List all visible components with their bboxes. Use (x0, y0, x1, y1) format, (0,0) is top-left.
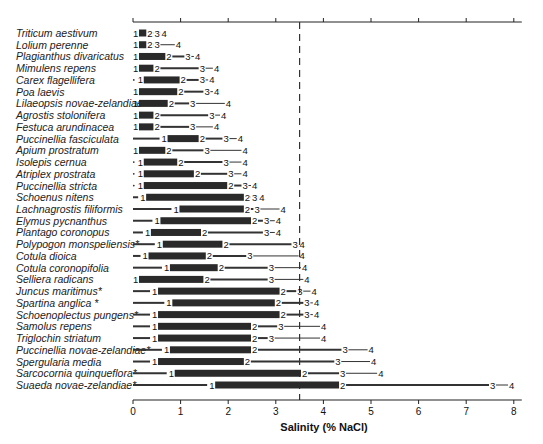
marker-4: 4 (281, 204, 286, 215)
marker-1: 1 (164, 344, 169, 355)
range-bar (158, 288, 280, 295)
range-bar (158, 335, 251, 342)
marker-2: 2 (195, 168, 200, 179)
species-label: Puccinellia novae-zelandiae* (16, 344, 151, 356)
marker-3: 3 (304, 309, 309, 320)
species-row: Sarcocornia quinqueflora*1234 (16, 367, 383, 379)
species-label: Agrostis stolonifera (15, 109, 105, 121)
marker-3: 3 (264, 215, 269, 226)
species-row: Atriplex prostrata1234 (15, 168, 248, 180)
species-row: Plagianthus divaricatus1234 (16, 50, 200, 62)
species-label: Mimulens repens (16, 62, 97, 74)
species-label: Festuca arundinacea (16, 121, 114, 133)
range-bar (139, 112, 153, 119)
marker-1: 1 (133, 121, 138, 132)
x-tick-label: 6 (416, 406, 422, 417)
marker-2: 2 (302, 368, 307, 379)
marker-2: 2 (154, 121, 159, 132)
marker-4: 4 (242, 168, 247, 179)
marker-1: 1 (133, 110, 138, 121)
marker-3: 3 (342, 344, 347, 355)
range-bar (139, 276, 203, 283)
marker-4: 4 (214, 121, 219, 132)
marker-4: 4 (252, 180, 257, 191)
species-row: Lolium perenne1234 (16, 39, 181, 51)
marker-3: 3 (269, 274, 274, 285)
marker-2: 2 (154, 63, 159, 74)
marker-1: 1 (162, 133, 167, 144)
species-label: Cotula dioica (16, 250, 77, 262)
marker-2: 2 (223, 239, 228, 250)
marker-1: 1 (152, 321, 157, 332)
species-label: Apium prostratum (15, 144, 99, 156)
marker-2: 2 (178, 86, 183, 97)
x-tick-label: 7 (463, 406, 469, 417)
species-label: Lolium perenne (16, 39, 89, 51)
range-bar (139, 88, 177, 95)
species-label: Lachnagrostis filiformis (16, 203, 124, 215)
marker-3: 3 (340, 368, 345, 379)
species-row: Elymus pycnanthus1234 (16, 215, 281, 227)
marker-2: 2 (181, 74, 186, 85)
marker-4: 4 (321, 333, 326, 344)
marker-2: 2 (219, 262, 224, 273)
range-bar (158, 358, 244, 365)
dot (133, 173, 135, 175)
species-row: Selliera radicans1234 (16, 273, 310, 285)
marker-4: 4 (226, 98, 231, 109)
species-row: Cotula dioica1234 (16, 250, 305, 262)
marker-3: 3 (292, 239, 297, 250)
marker-4: 4 (371, 356, 376, 367)
species-label: Lilaeopsis novae-zelandiae (16, 97, 143, 109)
range-bar (168, 135, 199, 142)
range-bar (160, 217, 251, 224)
species-row: Schoenus nitens1234 (16, 191, 264, 203)
marker-3: 3 (490, 380, 495, 391)
marker-3: 3 (200, 74, 205, 85)
species-row: Apium prostratum1234 (15, 144, 248, 156)
marker-1: 1 (133, 51, 138, 62)
marker-4: 4 (195, 51, 200, 62)
range-bar (179, 206, 243, 213)
marker-2: 2 (245, 192, 250, 203)
marker-1: 1 (138, 180, 143, 191)
marker-2: 2 (228, 180, 233, 191)
marker-4: 4 (176, 39, 181, 50)
marker-3: 3 (304, 297, 309, 308)
x-tick-label: 8 (511, 406, 517, 417)
marker-4: 4 (276, 227, 281, 238)
marker-2: 2 (202, 227, 207, 238)
species-row: Spartina anglica *1234 (16, 297, 319, 309)
species-row: Samolus repens1234 (16, 320, 326, 332)
range-bar (175, 370, 301, 377)
marker-2: 2 (252, 333, 257, 344)
species-row: Triticum aestivum1234 (16, 27, 167, 39)
marker-2: 2 (252, 344, 257, 355)
range-bar (144, 159, 177, 166)
marker-1: 1 (169, 368, 174, 379)
marker-4: 4 (221, 110, 226, 121)
x-tick-label: 3 (273, 406, 279, 417)
species-row: Isolepis cernua1234 (16, 156, 248, 168)
species-row: Mimulens repens1234 (16, 62, 219, 74)
x-axis-label: Salinity (% NaCl) (280, 421, 368, 433)
marker-2: 2 (169, 98, 174, 109)
species-label: Puccinellia stricta (16, 180, 97, 192)
species-row: Cotula coronopifolia1234 (16, 262, 307, 274)
marker-2: 2 (200, 133, 205, 144)
species-row: Juncus maritimus*1234 (15, 285, 317, 297)
marker-1: 1 (133, 86, 138, 97)
marker-2: 2 (147, 28, 152, 39)
x-axis: 012345678 (130, 400, 522, 417)
range-bar (139, 41, 146, 48)
species-label: Schoenus nitens (16, 191, 94, 203)
marker-3: 3 (228, 168, 233, 179)
marker-4: 4 (276, 215, 281, 226)
range-bar (149, 252, 206, 259)
range-bar (144, 76, 180, 83)
marker-3: 3 (252, 192, 257, 203)
marker-1: 1 (152, 333, 157, 344)
marker-3: 3 (278, 321, 283, 332)
species-label: Isolepis cernua (16, 156, 87, 168)
marker-3: 3 (185, 51, 190, 62)
